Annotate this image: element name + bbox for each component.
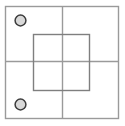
- hole-bottom-left-icon: [15, 99, 26, 110]
- hole-top-left-icon: [15, 15, 26, 26]
- schematic-diagram: Square plate schematic with quadrant lin…: [0, 0, 125, 126]
- diagram-canvas: Square plate schematic with quadrant lin…: [0, 0, 125, 126]
